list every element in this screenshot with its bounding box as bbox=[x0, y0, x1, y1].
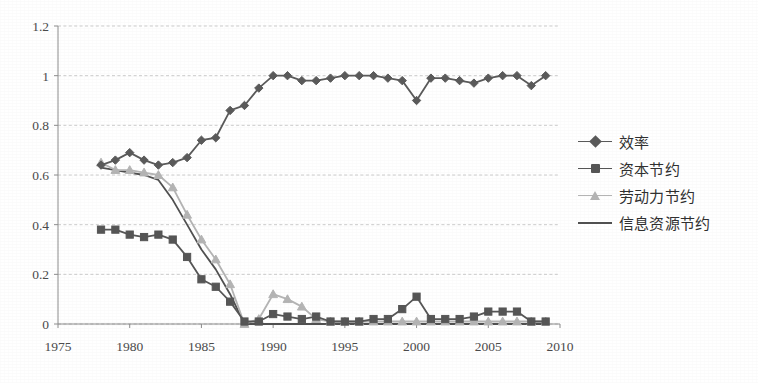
legend-item-information-resource-saving[interactable]: 信息资源节约 bbox=[578, 209, 754, 236]
svg-text:1.2: 1.2 bbox=[32, 19, 49, 34]
legend-marker-triangle-icon bbox=[578, 189, 612, 203]
svg-text:1995: 1995 bbox=[331, 339, 358, 354]
gridlines bbox=[58, 26, 560, 324]
legend-marker-diamond-icon bbox=[578, 135, 612, 149]
svg-text:0.8: 0.8 bbox=[32, 118, 49, 133]
y-axis-tick-labels: 00.20.40.60.811.2 bbox=[32, 19, 49, 332]
chart-legend: 效率 资本节约 劳动力节约 信息资源节约 bbox=[578, 128, 754, 236]
svg-text:0.2: 0.2 bbox=[32, 267, 49, 282]
legend-item-labor-saving[interactable]: 劳动力节约 bbox=[578, 182, 754, 209]
legend-marker-line-icon bbox=[578, 216, 612, 230]
svg-text:1: 1 bbox=[42, 69, 49, 84]
svg-text:0: 0 bbox=[42, 317, 49, 332]
legend-label-capital-saving: 资本节约 bbox=[619, 158, 680, 179]
svg-text:1975: 1975 bbox=[45, 339, 72, 354]
svg-text:2000: 2000 bbox=[403, 339, 430, 354]
chart-container: 00.20.40.60.811.2 1975198019851990199520… bbox=[0, 0, 758, 383]
legend-item-efficiency[interactable]: 效率 bbox=[578, 128, 754, 155]
svg-text:0.6: 0.6 bbox=[32, 168, 49, 183]
legend-label-labor-saving: 劳动力节约 bbox=[619, 185, 695, 206]
data-series-group bbox=[97, 71, 550, 327]
svg-text:2010: 2010 bbox=[547, 339, 574, 354]
legend-marker-square-icon bbox=[578, 162, 612, 176]
series-3 bbox=[97, 158, 550, 327]
x-axis-tick-labels: 19751980198519901995200020052010 bbox=[45, 339, 574, 354]
legend-item-capital-saving[interactable]: 资本节约 bbox=[578, 155, 754, 182]
legend-label-efficiency: 效率 bbox=[619, 131, 649, 152]
svg-text:1980: 1980 bbox=[116, 339, 143, 354]
legend-label-information-resource-saving: 信息资源节约 bbox=[619, 212, 710, 233]
series-1 bbox=[97, 71, 550, 169]
svg-text:1985: 1985 bbox=[188, 339, 215, 354]
svg-text:2005: 2005 bbox=[475, 339, 502, 354]
chart-axes bbox=[54, 26, 560, 328]
series-2 bbox=[97, 226, 549, 325]
svg-text:1990: 1990 bbox=[260, 339, 287, 354]
svg-text:0.4: 0.4 bbox=[32, 218, 49, 233]
